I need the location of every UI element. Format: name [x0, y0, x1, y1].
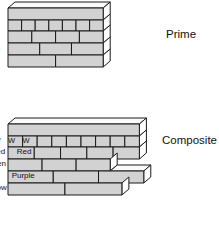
rod-segment-g0-r2-s1: [32, 31, 56, 43]
rod-top-face-g1-r0: [8, 118, 146, 124]
rod-segment-g1-r1-s4: [66, 136, 81, 147]
rod-top-face-g0-r0: [8, 2, 110, 8]
rod-segment-g0-r4-s1: [56, 55, 104, 67]
rod-segment-g1-r4-s2: [99, 171, 144, 183]
rod-diagram-figure: BlackWWWWWWWRedRedRedRedGreenGreenGreenP…: [0, 0, 219, 235]
rod-segment-g0-r3-s2: [71, 43, 103, 55]
rod-segment-g1-r1-s8: [125, 136, 140, 147]
group-caption-prime: Prime: [166, 29, 196, 41]
rod-segment-g1-r2-s2: [61, 147, 87, 159]
rod-segment-g1-r3-s2: [76, 159, 110, 171]
rod-segment-g1-r2-s0: [8, 147, 34, 159]
rod-segment-g1-r4-s1: [53, 171, 98, 183]
rod-segment-g1-r1-s6: [96, 136, 111, 147]
rod-segment-g0-r2-s3: [79, 31, 103, 43]
rod-segment-g1-r0-s0: [8, 124, 139, 136]
rod-segment-g1-r4-s0: [8, 171, 53, 183]
rod-segment-g1-r5-s0: [8, 183, 65, 195]
rod-segment-g1-r1-s1: [23, 136, 38, 147]
rod-segment-g0-r1-s6: [90, 20, 104, 31]
rod-segment-g0-r1-s3: [49, 20, 63, 31]
rod-segment-g1-r1-s7: [110, 136, 125, 147]
rod-segment-g1-r3-s0: [8, 159, 42, 171]
rod-segment-g1-r3-s1: [42, 159, 76, 171]
rod-segment-g0-r2-s0: [8, 31, 32, 43]
group-caption-composite: Composite: [162, 135, 217, 147]
rod-segment-g1-r1-s0: [8, 136, 23, 147]
rod-segment-g1-r1-s2: [37, 136, 52, 147]
rod-segment-g1-r5-s1: [65, 183, 122, 195]
rod-segment-g0-r1-s5: [76, 20, 90, 31]
rod-segment-g0-r4-s0: [8, 55, 56, 67]
rod-segment-g0-r3-s1: [40, 43, 72, 55]
rod-segment-g0-r1-s2: [35, 20, 49, 31]
rod-segment-g0-r1-s4: [62, 20, 76, 31]
rod-segment-g1-r1-s3: [52, 136, 67, 147]
rod-segment-g0-r1-s0: [8, 20, 22, 31]
rod-segment-g0-r1-s1: [22, 20, 36, 31]
rod-segment-g0-r0-s0: [8, 8, 103, 20]
rod-segment-g0-r3-s0: [8, 43, 40, 55]
rod-segment-g1-r2-s1: [34, 147, 60, 159]
rod-segment-g0-r2-s2: [56, 31, 80, 43]
rod-segment-g1-r1-s5: [81, 136, 96, 147]
rod-segment-g1-r2-s3: [87, 147, 113, 159]
